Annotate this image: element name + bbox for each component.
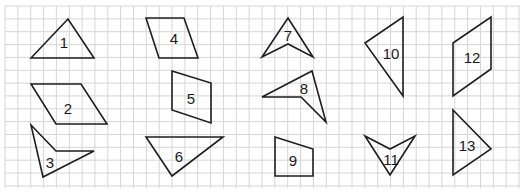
shape-number-label: 1 <box>60 34 68 51</box>
shape-5: 5 <box>172 71 211 123</box>
shape-10: 10 <box>365 17 403 96</box>
shape-number-label: 5 <box>187 90 195 107</box>
shape-number-label: 4 <box>170 30 178 47</box>
shapes-worksheet: 12345678910111213 <box>0 0 520 196</box>
shape-number-label: 2 <box>64 100 72 117</box>
shape-number-label: 8 <box>300 80 308 97</box>
shape-number-label: 6 <box>175 148 183 165</box>
shape-number-label: 3 <box>46 154 54 171</box>
shape-3: 3 <box>31 125 94 177</box>
shape-13: 13 <box>453 110 491 175</box>
shape-8: 8 <box>262 71 326 122</box>
shape-number-label: 11 <box>383 151 399 168</box>
shape-9: 9 <box>275 137 313 176</box>
shape-1: 1 <box>31 19 94 58</box>
shape-number-label: 7 <box>284 27 292 44</box>
concave-quadrilateral-outline <box>31 125 94 177</box>
shape-number-label: 13 <box>459 137 476 154</box>
shape-number-label: 10 <box>383 45 400 62</box>
numbered-shapes: 12345678910111213 <box>31 17 491 177</box>
shape-number-label: 9 <box>289 152 297 169</box>
shape-number-label: 12 <box>464 49 481 66</box>
shape-12: 12 <box>453 17 491 96</box>
concave-quadrilateral-outline <box>262 71 326 122</box>
